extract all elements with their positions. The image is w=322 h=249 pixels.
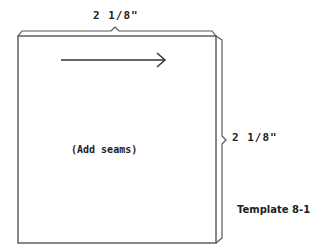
seam-note: (Add seams) [71, 144, 137, 155]
right-brace [216, 36, 226, 243]
template-label: Template 8-1 [237, 204, 310, 215]
side-dimension-label: 2 1/8" [232, 131, 278, 144]
template-square [18, 36, 216, 243]
top-brace [18, 27, 216, 36]
top-dimension-label: 2 1/8" [93, 9, 139, 22]
